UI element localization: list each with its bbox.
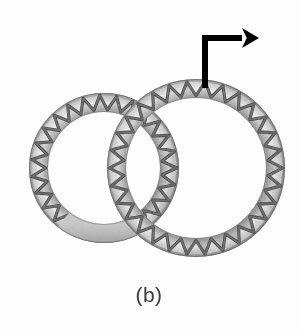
figure-panel: (b): [0, 0, 298, 334]
ring-pair-illustration: [0, 0, 298, 334]
